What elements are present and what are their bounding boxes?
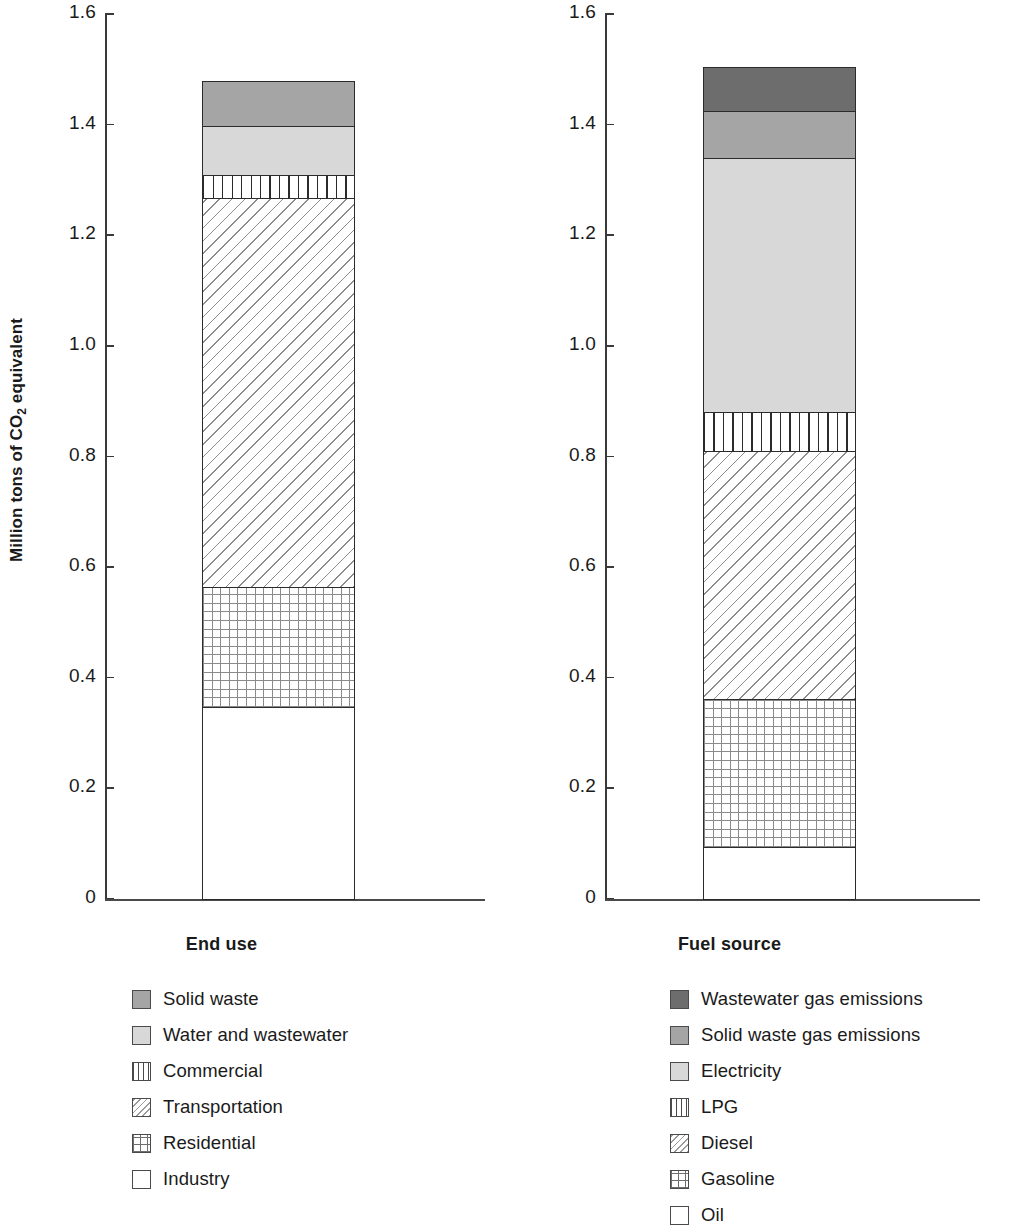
legend-item-label: Solid waste gas emissions: [701, 1024, 920, 1046]
legend-swatch-icon: [670, 1026, 689, 1045]
y-axis-tick-label: 0.8: [36, 444, 96, 466]
legend-item[interactable]: Diesel: [670, 1125, 1026, 1161]
y-axis-tick-label: 0: [536, 886, 596, 908]
bar-segment: [202, 81, 355, 127]
legend-item-label: Commercial: [163, 1060, 263, 1082]
y-axis-tick: [105, 677, 114, 679]
y-axis-tick-label: 0.8: [536, 444, 596, 466]
fuel-source-caption: Fuel source: [513, 934, 1026, 955]
end-use-caption: End use: [0, 934, 513, 955]
y-axis-tick: [105, 787, 114, 789]
bar-segment: [202, 125, 355, 176]
y-axis-title: Million tons of CO2 equivalent: [7, 275, 27, 605]
bar-segment: [202, 587, 355, 709]
y-axis-title-subscript: 2: [15, 408, 29, 415]
y-axis-title-main: Million tons of CO: [7, 415, 26, 562]
y-axis-tick-label: 0.4: [36, 665, 96, 687]
bar-segment: [703, 451, 856, 701]
fuel-source-legend-block: Fuel source Wastewater gas emissionsSoli…: [513, 934, 1026, 1228]
bar-segment: [703, 412, 856, 452]
y-axis-tick: [605, 124, 614, 126]
legend-item-label: Diesel: [701, 1132, 753, 1154]
legend-item-label: Residential: [163, 1132, 256, 1154]
y-axis-tick: [105, 566, 114, 568]
y-axis-tick: [105, 13, 114, 15]
legend-item-label: Oil: [701, 1204, 724, 1226]
bar-segment: [703, 846, 856, 900]
y-axis-tick-label: 1.4: [536, 112, 596, 134]
legend-swatch-icon: [670, 1062, 689, 1081]
y-axis-tick-label: 0.4: [536, 665, 596, 687]
bar-segment: [703, 699, 856, 848]
end-use-chart-panel: Million tons of CO2 equivalent 1.61.41.2…: [0, 0, 513, 920]
y-axis-tick: [105, 345, 114, 347]
fuel-source-chart-panel: 1.61.41.21.00.80.60.40.20: [513, 0, 1026, 920]
y-axis-tick: [605, 456, 614, 458]
legend-item[interactable]: Industry: [132, 1161, 513, 1197]
legend-item-label: Industry: [163, 1168, 230, 1190]
legend-item[interactable]: Solid waste gas emissions: [670, 1017, 1026, 1053]
legend-item[interactable]: Gasoline: [670, 1161, 1026, 1197]
y-axis-tick-label: 1.0: [36, 333, 96, 355]
legend-swatch-icon: [132, 1098, 151, 1117]
y-axis-tick: [105, 234, 114, 236]
y-axis-tick: [605, 345, 614, 347]
y-axis-tick-label: 0.6: [36, 554, 96, 576]
y-axis-tick: [605, 787, 614, 789]
y-axis-tick: [105, 124, 114, 126]
legend-item[interactable]: Wastewater gas emissions: [670, 981, 1026, 1017]
legend-swatch-icon: [132, 1170, 151, 1189]
y-axis-tick-label: 0.2: [536, 775, 596, 797]
legend-item-label: Solid waste: [163, 988, 259, 1010]
bar-segment: [703, 111, 856, 159]
y-axis-tick: [605, 13, 614, 15]
legend-item-label: Transportation: [163, 1096, 283, 1118]
y-axis-title-tail: equivalent: [7, 318, 26, 408]
y-axis-tick-label: 0.6: [536, 554, 596, 576]
bar-segment: [202, 175, 355, 199]
legend-item[interactable]: LPG: [670, 1089, 1026, 1125]
legend-item-label: LPG: [701, 1096, 738, 1118]
legend-swatch-icon: [670, 990, 689, 1009]
legend-item-label: Water and wastewater: [163, 1024, 348, 1046]
y-axis-tick-label: 1.6: [36, 1, 96, 23]
legend-item[interactable]: Transportation: [132, 1089, 513, 1125]
legend-item[interactable]: Commercial: [132, 1053, 513, 1089]
y-axis-tick-label: 0: [36, 886, 96, 908]
y-axis-tick-label: 0.2: [36, 775, 96, 797]
legend-item[interactable]: Oil: [670, 1197, 1026, 1228]
bar-segment: [202, 197, 355, 588]
y-axis-tick: [605, 677, 614, 679]
y-axis-tick-label: 1.6: [536, 1, 596, 23]
legend-swatch-icon: [670, 1206, 689, 1225]
y-axis-tick-label: 1.2: [536, 222, 596, 244]
legend-item-label: Wastewater gas emissions: [701, 988, 923, 1010]
legend-item[interactable]: Residential: [132, 1125, 513, 1161]
bar-segment: [202, 707, 355, 900]
y-axis-tick-label: 1.2: [36, 222, 96, 244]
legend-item-label: Gasoline: [701, 1168, 775, 1190]
end-use-stacked-bar: [202, 0, 355, 900]
legend-swatch-icon: [132, 1062, 151, 1081]
legend-swatch-icon: [670, 1170, 689, 1189]
fuel-source-legend-list: Wastewater gas emissionsSolid waste gas …: [513, 981, 1026, 1228]
end-use-legend-list: Solid wasteWater and wastewaterCommercia…: [0, 981, 513, 1197]
legend-swatch-icon: [670, 1098, 689, 1117]
end-use-legend-block: End use Solid wasteWater and wastewaterC…: [0, 934, 513, 1197]
bar-segment: [703, 67, 856, 113]
y-axis-tick-label: 1.0: [536, 333, 596, 355]
legend-item[interactable]: Solid waste: [132, 981, 513, 1017]
y-axis-tick-label: 1.4: [36, 112, 96, 134]
legend-swatch-icon: [132, 1134, 151, 1153]
bar-segment: [703, 158, 856, 413]
y-axis-tick: [605, 566, 614, 568]
legend-item[interactable]: Electricity: [670, 1053, 1026, 1089]
legend-swatch-icon: [132, 1026, 151, 1045]
fuel-source-stacked-bar: [703, 0, 856, 900]
legend-item[interactable]: Water and wastewater: [132, 1017, 513, 1053]
legend-swatch-icon: [132, 990, 151, 1009]
legend-swatch-icon: [670, 1134, 689, 1153]
y-axis-tick: [105, 456, 114, 458]
y-axis-tick: [605, 234, 614, 236]
legend-item-label: Electricity: [701, 1060, 781, 1082]
